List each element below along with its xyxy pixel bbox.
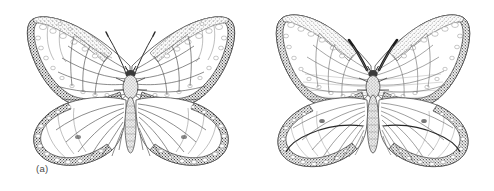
hindwing-dark-spot: [319, 119, 325, 123]
figure-panel-a: (a): [0, 0, 247, 191]
butterfly-a-right-hindwing: [136, 97, 228, 165]
butterfly-b-right-forewing: [375, 15, 470, 106]
figure-container: (a): [0, 0, 494, 191]
butterfly-a-antennae-clubs: [106, 32, 155, 36]
butterfly-a-left-hindwing: [34, 97, 126, 165]
butterfly-b-illustration: [247, 0, 494, 191]
hindwing-dark-spot: [75, 135, 81, 139]
butterfly-a-right-forewing: [132, 17, 235, 106]
butterfly-b-left-hindwing: [278, 98, 368, 167]
panel-label-a: (a): [36, 163, 49, 174]
abdomen: [367, 95, 379, 153]
butterfly-b-right-hindwing: [378, 98, 468, 167]
figure-panel-b: (b): [247, 0, 494, 191]
butterfly-a-left-forewing: [27, 17, 130, 106]
butterfly-b-left-forewing: [276, 15, 371, 106]
thorax: [123, 75, 138, 99]
abdomen: [125, 97, 136, 153]
